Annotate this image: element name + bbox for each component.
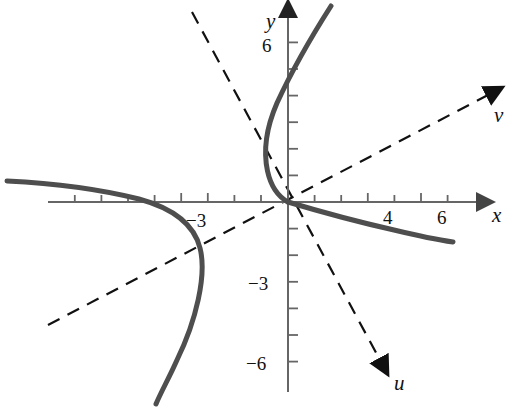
y-tick-label-neg6: −6 <box>246 353 266 374</box>
v-axis-label: v <box>494 103 504 127</box>
x-tick-label-4: 4 <box>383 207 393 228</box>
y-axis-label: y <box>264 9 276 33</box>
curve-branch-left <box>7 181 202 404</box>
graph-svg: x y u v 4 6 −3 6 −3 −6 <box>0 0 517 408</box>
x-tick-label-neg3: −3 <box>186 210 206 231</box>
u-axis-label: u <box>394 371 405 395</box>
curve-branch-upper <box>266 6 331 202</box>
curve <box>7 6 453 404</box>
x-axis-label: x <box>491 203 502 227</box>
figure-canvas: x y u v 4 6 −3 6 −3 −6 <box>0 0 517 408</box>
u-axis-line <box>192 12 380 360</box>
u-axis <box>192 12 380 360</box>
y-tick-label-neg3: −3 <box>248 273 268 294</box>
y-tick-label-6: 6 <box>262 35 272 56</box>
x-tick-label-6: 6 <box>437 207 447 228</box>
